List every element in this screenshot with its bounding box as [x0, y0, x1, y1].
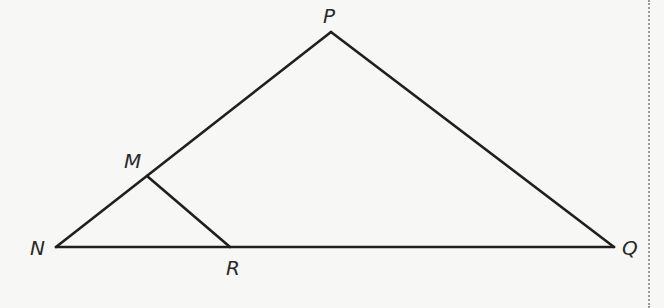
diagram-canvas: [0, 0, 664, 308]
vertex-label-n: N: [30, 238, 45, 258]
dotted-margin-line: [648, 0, 650, 308]
vertex-label-r: R: [226, 258, 240, 278]
segment-mr: [147, 176, 230, 247]
vertex-label-p: P: [323, 6, 335, 26]
vertex-label-q: Q: [622, 238, 638, 258]
triangle-diagram: P M N R Q: [0, 0, 664, 308]
segment-pq: [331, 32, 614, 247]
vertex-label-m: M: [124, 151, 141, 171]
